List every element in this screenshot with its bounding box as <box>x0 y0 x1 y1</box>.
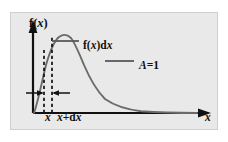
x-axis-label-text: x <box>205 111 211 123</box>
y-axis-label: f(x) <box>29 17 48 30</box>
y-axis-label-close-paren: ) <box>44 16 48 30</box>
area-label-symbol: A <box>139 59 147 71</box>
density-curve <box>34 35 197 113</box>
area-annotation-label: A=1 <box>139 60 159 72</box>
area-label-value: 1 <box>153 59 159 71</box>
dx-width-right-arrow-icon <box>52 90 59 96</box>
figure-root: f(x) f(x)dx A=1 x x+dx x <box>0 0 228 142</box>
tick-label-x-text: x <box>45 111 51 123</box>
tick-label-xdx-differential-var: x <box>76 111 82 123</box>
strip-label-differential-var: x <box>107 39 113 51</box>
tick-label-x-plus-dx: x+dx <box>57 112 81 124</box>
plot-canvas <box>11 13 218 130</box>
x-axis-label: x <box>205 112 211 124</box>
strip-annotation-label: f(x)dx <box>83 40 112 52</box>
plot-panel: f(x) f(x)dx A=1 x x+dx x <box>10 12 218 130</box>
tick-label-x: x <box>45 112 51 124</box>
